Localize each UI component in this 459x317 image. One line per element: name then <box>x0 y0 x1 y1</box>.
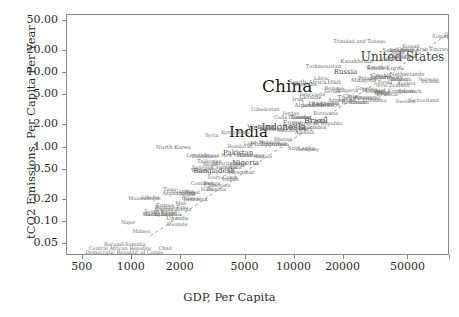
x-tick-mark <box>245 255 246 259</box>
scatter-point-label: Turkmenistan <box>306 63 341 68</box>
scatter-point-label: Malaysia <box>351 78 376 84</box>
scatter-point-label: Nepal <box>180 191 195 196</box>
x-tick-mark <box>294 255 295 259</box>
scatter-point-label: Mauritania <box>212 160 240 165</box>
scatter-point-label: Mongolia <box>293 81 317 86</box>
scatter-point-label: Gabon <box>310 118 326 123</box>
scatter-point-label: Uzbekistan <box>251 106 279 111</box>
x-tick-mark <box>82 255 83 259</box>
scatter-point-label: Denmark <box>398 89 421 94</box>
x-tick-mark <box>131 255 132 259</box>
scatter-point-label: Haiti <box>201 186 214 191</box>
scatter-point-label: Russia <box>334 68 357 75</box>
scatter-point-label: Central African Republic <box>89 245 152 250</box>
scatter-point-label: Yemen <box>191 167 208 172</box>
scatter-point-label: North Korea <box>156 145 191 151</box>
scatter-point-label: Lebanon <box>302 103 324 108</box>
y-tick-label: 0.05 <box>6 236 58 249</box>
scatter-point-label: Honduras <box>227 143 252 148</box>
scatter-point-label: Bolivia <box>258 124 275 129</box>
y-tick-label: 5.00 <box>6 87 58 100</box>
y-tick-label: 0.50 <box>6 162 58 175</box>
scatter-point-label: Guinea-Bissau <box>155 206 191 211</box>
scatter-point-label: Slovakia <box>362 87 383 92</box>
scatter-point-label: Ireland <box>421 79 439 84</box>
scatter-point-label: Angola <box>254 153 272 158</box>
x-tick-mark <box>407 255 408 259</box>
x-tick-mark <box>180 255 181 259</box>
scatter-point-label: Venezuela <box>299 91 325 96</box>
scatter-point-label: Botswana <box>313 111 338 116</box>
scatter-point-label: Libya <box>314 75 328 80</box>
scatter-point-label: Rwanda <box>167 221 187 226</box>
scatter-point-label: Trinidad and Tobago <box>333 39 385 44</box>
scatter-point-label: Namibia <box>276 128 297 133</box>
y-tick-label: 10.00 <box>6 65 58 78</box>
x-tick-label: 2000 <box>150 260 210 273</box>
x-axis-title: GDP, Per Capita <box>0 290 459 304</box>
scatter-point-label: Syria <box>205 133 218 138</box>
y-tick-label: 0.10 <box>6 214 58 227</box>
scatter-point-label: Oman <box>381 56 396 61</box>
scatter-point-label: Lithuania <box>363 97 387 102</box>
scatter-point-label: Bahrain <box>389 47 409 52</box>
x-tick-mark-unlabelled <box>449 255 450 259</box>
y-tick-label: 50.00 <box>6 13 58 26</box>
scatter-point-label: Estonia <box>367 65 386 70</box>
scatter-point-label: Guinea <box>182 196 200 201</box>
scatter-point-label: Bhutan <box>274 137 292 142</box>
scatter-point-label: Liberia <box>141 194 159 199</box>
scatter-point-label: Georgia <box>291 114 311 119</box>
scatter-point-label: Serbia <box>324 89 341 94</box>
x-tick-mark <box>343 255 344 259</box>
plot-area: ChinaIndiaUnited StatesIndonesiaBrazilPa… <box>66 14 449 255</box>
scatter-point-label: Switzerland <box>408 98 438 103</box>
scatter-point-label: Comoros <box>191 181 214 186</box>
y-tick-label: 1.00 <box>6 140 58 153</box>
x-tick-label: 20000 <box>313 260 373 273</box>
y-tick-label: 2.00 <box>6 117 58 130</box>
scatter-point-label: Papua New Guinea <box>204 152 252 157</box>
scatter-point-label: Malawi <box>132 229 151 234</box>
scatter-point-label: Lesotho <box>187 152 207 157</box>
chart-figure: tCO2 Emissions, Per Capita Per Year 0.05… <box>0 0 459 317</box>
x-tick-label: 50000 <box>377 260 437 273</box>
y-tick-label: 20.00 <box>6 43 58 56</box>
scatter-point-label: Qatar <box>444 32 449 37</box>
scatter-point-label: Kyrgyzstan <box>221 130 249 135</box>
scatter-point-label: Niger <box>121 220 136 225</box>
scatter-point-label: Paraguay <box>296 147 320 152</box>
y-tick-label: 0.20 <box>6 192 58 205</box>
